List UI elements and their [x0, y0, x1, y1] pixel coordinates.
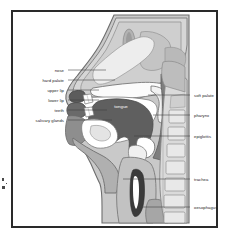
label-lower-lip: lower lip	[48, 98, 64, 103]
label-soft-palate: soft palate	[194, 93, 214, 98]
screenshot-root: nose hard palate upper lip lower lip tee…	[0, 0, 229, 238]
figure-frame: nose hard palate upper lip lower lip tee…	[11, 10, 218, 228]
label-salivary-glands: salivary glands	[36, 118, 64, 123]
label-tongue: tongue	[114, 104, 128, 109]
label-pharynx: pharynx	[194, 113, 209, 118]
label-hard-palate: hard palate	[42, 78, 64, 83]
edge-artifact-mark	[6, 183, 7, 184]
edge-artifact-mark	[2, 178, 4, 181]
label-epiglottis: epiglottis	[194, 134, 211, 139]
vertebra-process	[170, 94, 185, 108]
label-upper-lip: upper lip	[47, 88, 64, 93]
edge-artifact-mark	[2, 186, 5, 189]
label-nose: nose	[55, 68, 64, 73]
label-oesophagus: oesophagus	[194, 205, 217, 210]
label-trachea: trachea	[194, 177, 208, 182]
label-teeth: teeth	[54, 108, 64, 113]
